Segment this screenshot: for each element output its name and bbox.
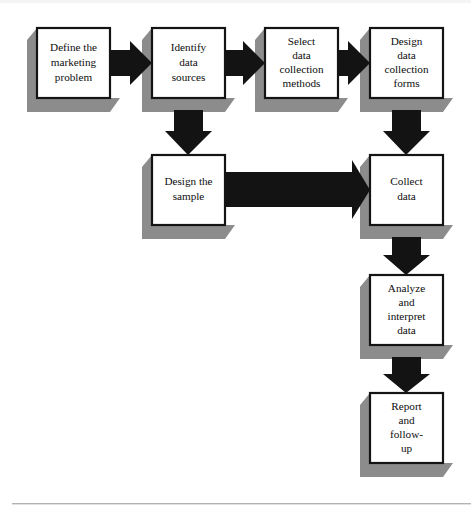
node-label-collect-data-line1: Collect: [390, 175, 423, 187]
node-label-design-data-collection-forms-line3: collection: [384, 63, 429, 75]
node-label-report-and-follow-up-line1: Report: [391, 400, 422, 412]
nodes-layer: Define the marketing problem Identify da…: [37, 28, 443, 463]
node-label-collect-data-line2: data: [397, 190, 416, 202]
node-design-data-collection-forms[interactable]: Design data collection forms: [370, 28, 443, 98]
node-label-design-data-collection-forms-line1: Design: [391, 35, 423, 47]
node-label-select-data-collection-methods-line2: data: [292, 49, 311, 61]
node-collect-data[interactable]: Collect data: [370, 155, 443, 225]
node-label-design-the-sample-line1: Design the: [164, 175, 212, 187]
node-label-analyze-and-interpret-data-line3: interpret: [388, 310, 427, 322]
node-label-select-data-collection-methods-line3: collection: [279, 63, 324, 75]
node-design-the-sample[interactable]: Design the sample: [152, 155, 225, 225]
top-edge-artifact: [0, 0, 471, 3]
node-label-design-data-collection-forms-line4: forms: [393, 77, 419, 89]
node-label-analyze-and-interpret-data-line4: data: [397, 324, 416, 336]
node-label-identify-data-sources-line1: Identify: [171, 41, 207, 53]
node-select-data-collection-methods[interactable]: Select data collection methods: [265, 28, 338, 98]
node-label-report-and-follow-up-line3: follow-: [390, 428, 423, 440]
node-label-identify-data-sources-line3: sources: [172, 71, 206, 83]
node-label-design-the-sample-line2: sample: [173, 190, 205, 202]
node-label-report-and-follow-up-line4: up: [401, 442, 413, 454]
flowchart-container: Define the marketing problem Identify da…: [0, 0, 471, 516]
flowchart-svg: Define the marketing problem Identify da…: [0, 0, 471, 516]
node-label-analyze-and-interpret-data-line2: and: [398, 296, 415, 308]
node-label-define-marketing-problem-line1: Define the: [50, 41, 97, 53]
node-identify-data-sources[interactable]: Identify data sources: [152, 28, 225, 98]
arrow-identify-to-design-sample: [165, 110, 212, 155]
node-label-identify-data-sources-line2: data: [179, 56, 198, 68]
footer-divider-rule: [12, 503, 471, 504]
arrow-analyze-to-report: [383, 357, 430, 393]
node-label-select-data-collection-methods-line4: methods: [283, 77, 321, 89]
node-label-design-data-collection-forms-line2: data: [397, 49, 416, 61]
node-analyze-and-interpret-data[interactable]: Analyze and interpret data: [370, 275, 443, 345]
arrow-collect-to-analyze: [383, 237, 430, 275]
node-label-analyze-and-interpret-data-line1: Analyze: [388, 282, 425, 294]
node-label-report-and-follow-up-line2: and: [398, 414, 415, 426]
arrow-design-sample-to-collect: [222, 160, 370, 219]
node-label-select-data-collection-methods-line1: Select: [288, 35, 316, 47]
arrow-design-forms-to-collect: [383, 110, 430, 155]
node-report-and-follow-up[interactable]: Report and follow- up: [370, 393, 443, 463]
node-label-define-marketing-problem-line3: problem: [55, 71, 93, 83]
node-label-define-marketing-problem-line2: marketing: [51, 56, 97, 68]
node-define-marketing-problem[interactable]: Define the marketing problem: [37, 28, 110, 98]
